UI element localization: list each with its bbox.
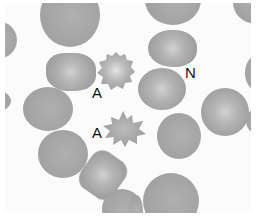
rbc-cell	[143, 173, 199, 213]
rbc-cell	[5, 89, 11, 113]
label-normal-cell: N	[185, 65, 196, 80]
rbc-cell	[23, 87, 73, 131]
echinocyte-cell	[101, 109, 147, 149]
rbc-cell-irregular	[46, 53, 96, 91]
label-echinocyte-2: A	[92, 125, 102, 140]
rbc-cell	[40, 3, 100, 47]
rbc-cell	[245, 55, 251, 91]
micrograph	[5, 3, 251, 213]
rbc-cell	[233, 3, 251, 23]
rbc-cell-normal	[148, 30, 197, 67]
rbc-cell	[157, 113, 201, 159]
rbc-cell	[201, 88, 249, 136]
rbc-cell	[129, 195, 143, 213]
label-echinocyte-1: A	[92, 85, 102, 100]
rbc-cell	[5, 21, 17, 59]
rbc-cell	[145, 3, 201, 25]
rbc-cell	[138, 68, 186, 110]
